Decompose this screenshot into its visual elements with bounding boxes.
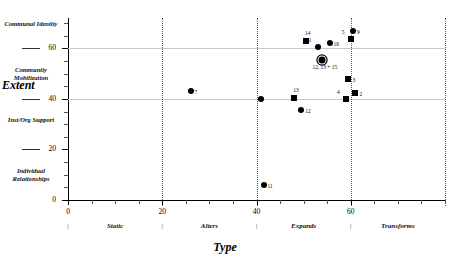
y-axis-minor-tick xyxy=(64,112,68,113)
y-axis-tick-label: 0 xyxy=(32,195,56,204)
y-category-divider xyxy=(22,99,40,100)
y-axis-major-tick xyxy=(62,149,68,150)
data-point-marker-circle xyxy=(258,96,264,102)
data-point-label: 2 xyxy=(359,91,362,97)
data-point-marker-circle xyxy=(315,44,321,50)
data-point-marker-square xyxy=(343,96,349,102)
x-axis-minor-tick xyxy=(304,200,305,204)
data-point-marker-square xyxy=(291,95,297,101)
x-axis-major-tick xyxy=(68,200,69,205)
x-category-label: Alters xyxy=(201,222,218,230)
x-axis-major-tick xyxy=(351,200,352,205)
data-point-marker-circle xyxy=(298,107,304,113)
y-axis-minor-tick xyxy=(64,74,68,75)
x-axis-minor-tick xyxy=(374,200,375,204)
x-category-label: Expands xyxy=(291,222,316,230)
data-point-marker-circle xyxy=(327,40,333,46)
data-point-label: 11 xyxy=(268,183,273,189)
x-axis-minor-tick xyxy=(280,200,281,204)
x-axis-minor-tick xyxy=(233,200,234,204)
y-axis-line xyxy=(68,18,69,200)
y-axis-minor-tick xyxy=(64,187,68,188)
data-point-label: 7 xyxy=(195,89,198,95)
data-point-label: 16 xyxy=(334,41,339,47)
y-axis-minor-tick xyxy=(64,86,68,87)
data-point-label: 4 xyxy=(337,89,340,95)
y-axis-minor-tick xyxy=(64,137,68,138)
y-axis-minor-tick xyxy=(64,61,68,62)
x-axis-tick-label: 60 xyxy=(347,207,355,216)
x-axis-title: Type xyxy=(0,240,450,255)
data-point-marker-circle xyxy=(188,88,194,94)
data-point-label: 9 xyxy=(357,29,360,35)
x-axis-minor-tick xyxy=(186,200,187,204)
vertical-dotted-line xyxy=(351,18,352,206)
y-axis-major-tick xyxy=(62,99,68,100)
data-point-label: 12, 13 + 15 xyxy=(312,64,337,70)
data-point-label: 5 xyxy=(342,29,345,35)
x-axis-minor-tick xyxy=(92,200,93,204)
data-point-marker-target xyxy=(319,56,326,63)
x-axis-major-tick xyxy=(162,200,163,205)
scatter-chart: Extent Type 02040600204060 Individual Re… xyxy=(0,0,450,266)
vertical-dotted-line xyxy=(257,18,258,206)
y-axis-minor-tick xyxy=(64,36,68,37)
x-category-separator: | xyxy=(162,222,163,230)
x-category-label: Transforms xyxy=(381,222,415,230)
x-axis-minor-tick xyxy=(398,200,399,204)
data-point-label: 12 xyxy=(305,108,310,114)
data-point-label: 14 xyxy=(305,30,310,36)
x-axis-major-tick xyxy=(257,200,258,205)
y-axis-major-tick xyxy=(62,48,68,49)
y-axis-minor-tick xyxy=(64,124,68,125)
y-category-divider xyxy=(22,48,40,49)
x-axis-minor-tick xyxy=(445,200,446,204)
data-point-label: 13 xyxy=(293,87,298,93)
y-category-label: Community Mobilization xyxy=(0,66,62,82)
x-axis-minor-tick xyxy=(139,200,140,204)
data-point-marker-square xyxy=(345,76,351,82)
y-category-label: Inst/Org Support xyxy=(0,116,62,124)
y-category-label: Communal Identity xyxy=(0,20,62,28)
x-axis-minor-tick xyxy=(209,200,210,204)
x-category-label: Static xyxy=(107,222,123,230)
x-axis-tick-label: 40 xyxy=(253,207,261,216)
x-axis-minor-tick xyxy=(327,200,328,204)
data-point-label: 3 xyxy=(352,77,355,83)
y-category-divider xyxy=(22,149,40,150)
data-point-marker-square xyxy=(352,90,358,96)
x-category-separator: | xyxy=(256,222,257,230)
y-category-label: Individual Relationships xyxy=(0,167,62,183)
x-category-separator: | xyxy=(350,222,351,230)
x-axis-tick-label: 20 xyxy=(159,207,167,216)
x-axis-minor-tick xyxy=(421,200,422,204)
x-category-separator: | xyxy=(67,222,68,230)
vertical-dotted-line xyxy=(445,18,446,206)
y-axis-minor-tick xyxy=(64,23,68,24)
y-axis-minor-tick xyxy=(64,175,68,176)
x-axis-minor-tick xyxy=(115,200,116,204)
vertical-dotted-line xyxy=(162,18,163,206)
x-axis-tick-label: 0 xyxy=(66,207,70,216)
y-axis-minor-tick xyxy=(64,162,68,163)
data-point-marker-circle xyxy=(350,28,356,34)
data-point-marker-circle xyxy=(261,182,267,188)
data-point-marker-square xyxy=(348,36,354,42)
data-point-label: 1 xyxy=(309,37,312,43)
